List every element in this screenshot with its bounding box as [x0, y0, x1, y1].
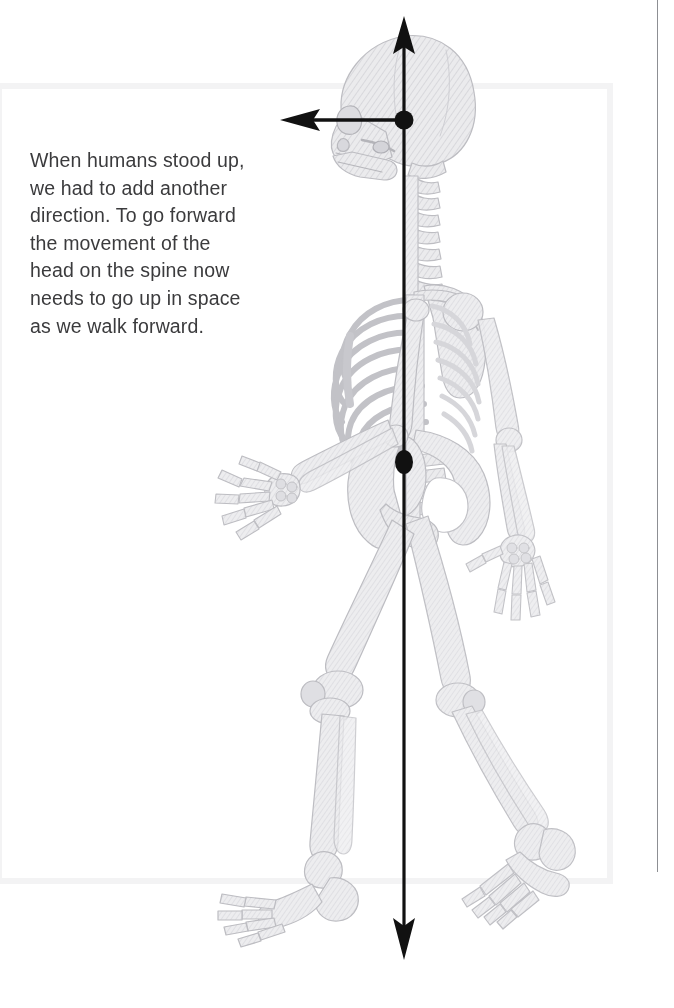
horizontal-axis-arrow [280, 109, 404, 131]
vertical-axis-arrow [393, 16, 415, 960]
hip-joint-dot [395, 450, 413, 474]
page-root: When humans stood up, we had to add anot… [0, 0, 674, 1008]
right-margin-rule [657, 0, 658, 872]
caption-text: When humans stood up, we had to add anot… [30, 147, 245, 340]
head-spine-joint-dot [395, 111, 414, 130]
